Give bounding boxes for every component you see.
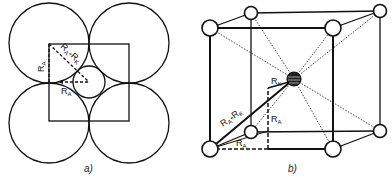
atom-front-top-left (202, 20, 218, 36)
atom-back-bottom-right (374, 125, 387, 138)
label-rk: RK (271, 76, 282, 87)
caption-a: a) (84, 163, 93, 174)
label-ra-plus-rk: RA+RK (58, 41, 83, 66)
crystal-structure-figure: RA RA+RK RA a) (0, 0, 392, 183)
atom-front-bottom-right (325, 141, 341, 157)
atom-back-bottom-left (245, 126, 258, 139)
atom-back-top-right (374, 5, 387, 18)
caption-b: b) (288, 163, 297, 174)
panel-b (202, 5, 387, 158)
label-ra-horizontal: RA (61, 86, 72, 97)
label-ra-vertical: RA (271, 114, 282, 125)
label-ra-plus-rk: RA+RK (218, 106, 244, 129)
cube-front-face (210, 28, 333, 149)
atom-back-top-left (245, 7, 258, 20)
arrow-head (58, 80, 63, 84)
atom-front-bottom-left (202, 141, 218, 157)
atom-front-top-right (325, 20, 341, 36)
label-ra-vertical: RA (36, 61, 47, 72)
center-atom (287, 72, 301, 86)
panel-b-labels: RK RA+RK RA RA b) (218, 76, 297, 174)
label-ra-bottom: RA (236, 138, 247, 149)
panel-a (9, 3, 169, 163)
